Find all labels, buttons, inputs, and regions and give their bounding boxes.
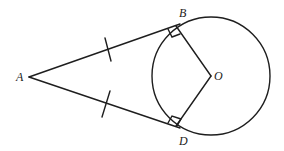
label-a: A [15, 70, 24, 84]
radius-ob [176, 26, 211, 76]
label-o: O [214, 69, 223, 83]
label-d: D [178, 134, 188, 148]
geometry-diagram: A B O D [0, 0, 284, 151]
label-b: B [179, 6, 187, 20]
segment-ad [29, 77, 180, 128]
